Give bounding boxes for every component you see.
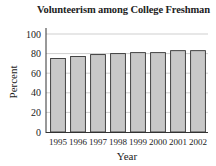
y-tick-label: 40 — [31, 87, 41, 98]
x-tick-label: 1999 — [129, 137, 148, 147]
bar-2001 — [171, 51, 186, 132]
y-tick-label: 60 — [31, 68, 41, 79]
x-tick-label: 2000 — [149, 137, 168, 147]
x-tick-label: 1998 — [109, 137, 128, 147]
bars — [51, 51, 206, 132]
x-tick-label: 2002 — [189, 137, 207, 147]
y-axis-label: Percent — [7, 66, 19, 99]
bar-chart: 020406080100 199519961997199819992000200… — [0, 0, 216, 166]
y-tick-label: 0 — [36, 127, 41, 138]
bar-1998 — [111, 54, 126, 132]
bar-2000 — [151, 53, 166, 132]
x-tick-label: 1996 — [69, 137, 88, 147]
x-tick-labels: 19951996199719981999200020012002 — [49, 137, 207, 147]
bar-2002 — [191, 51, 206, 132]
bar-1997 — [91, 55, 106, 132]
x-axis-label: Year — [117, 150, 138, 162]
bar-1995 — [51, 59, 66, 133]
y-tick-label: 20 — [31, 107, 41, 118]
y-tick-label: 80 — [31, 48, 41, 59]
bar-1996 — [71, 57, 86, 132]
bar-1999 — [131, 53, 146, 132]
x-tick-label: 1997 — [89, 137, 108, 147]
x-tick-label: 2001 — [169, 137, 187, 147]
y-tick-label: 100 — [26, 29, 41, 40]
x-tick-label: 1995 — [49, 137, 68, 147]
y-tick-labels: 020406080100 — [26, 29, 41, 138]
